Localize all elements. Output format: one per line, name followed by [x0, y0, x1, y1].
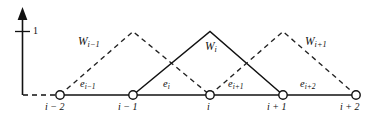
node-label-i-plus-2: i + 2: [340, 102, 360, 112]
mesh-node-i-minus-2: [56, 91, 64, 99]
node-label-i-minus-1: i − 1: [118, 102, 138, 112]
label-w-i-minus-1-sub: i−1: [88, 40, 100, 49]
label-edge-i-minus-1-sub: i−1: [85, 82, 96, 91]
node-label-i: i: [207, 102, 210, 112]
y-axis-group: [15, 7, 30, 95]
label-edge-i: ei: [163, 79, 170, 91]
mesh-node-i-minus-1: [129, 91, 137, 99]
label-edge-i-plus-2-sub: i+2: [305, 82, 316, 91]
label-w-i-minus-1-base: W: [78, 35, 88, 47]
label-w-i-base: W: [205, 40, 215, 52]
node-label-i-minus-2: i − 2: [45, 102, 65, 112]
label-w-i-minus-1: Wi−1: [78, 36, 100, 50]
mesh-node-i-plus-1: [279, 91, 287, 99]
y-axis-tick-label: 1: [33, 26, 38, 36]
y-axis-arrow-icon: [18, 7, 28, 20]
hat-function-figure: 1 Wi−1 Wi Wi+1 ei−1 ei ei+1 ei+2 i − 2 i…: [0, 0, 375, 116]
label-w-i-plus-1: Wi+1: [305, 36, 327, 50]
label-w-i-plus-1-base: W: [305, 35, 315, 47]
label-w-i-plus-1-sub: i+1: [315, 40, 327, 49]
label-edge-i-plus-1: ei+1: [228, 79, 244, 91]
label-edge-i-plus-2: ei+2: [300, 79, 316, 91]
mesh-node-i: [206, 91, 214, 99]
label-w-i-sub: i: [215, 45, 217, 54]
label-edge-i-sub: i: [168, 82, 170, 91]
label-edge-i-plus-1-sub: i+1: [233, 82, 244, 91]
node-label-i-plus-1: i + 1: [267, 102, 287, 112]
label-w-i: Wi: [205, 41, 217, 55]
mesh-node-i-plus-2: [352, 91, 360, 99]
figure-canvas: [0, 0, 375, 116]
label-edge-i-minus-1: ei−1: [80, 79, 96, 91]
